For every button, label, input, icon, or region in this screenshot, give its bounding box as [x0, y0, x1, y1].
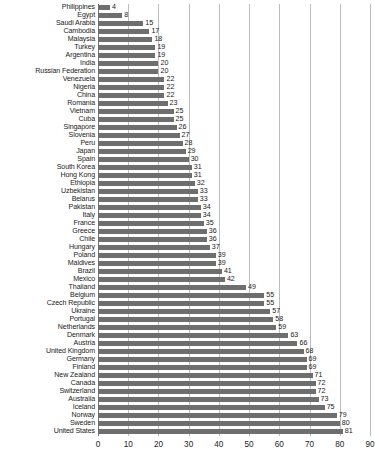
bar	[98, 213, 201, 219]
bar	[98, 277, 225, 283]
bar-row: Poland39	[98, 252, 370, 260]
bar	[98, 245, 210, 251]
category-label: United States	[54, 428, 95, 435]
bar-row: Thailand49	[98, 284, 370, 292]
bar-chart: Philippines4Egypt8Saudi Arabia15Cambodia…	[0, 0, 379, 468]
bar-row: Maldives39	[98, 260, 370, 268]
bar	[98, 77, 164, 83]
bar	[98, 365, 307, 371]
gridline-90	[370, 4, 371, 436]
bar	[98, 285, 246, 291]
x-tick-label: 60	[275, 440, 284, 449]
bar	[98, 117, 174, 123]
x-tick-label: 10	[124, 440, 133, 449]
value-label: 81	[345, 428, 353, 435]
bar	[98, 317, 273, 323]
bar	[98, 133, 180, 139]
x-tick-label: 90	[365, 440, 374, 449]
bar	[98, 229, 207, 235]
bar	[98, 405, 325, 411]
bar	[98, 373, 313, 379]
value-label: 4	[112, 4, 116, 11]
bar-row: India20	[98, 60, 370, 68]
bar	[98, 141, 183, 147]
bar-row: Finland69	[98, 364, 370, 372]
bar	[98, 421, 340, 427]
bar	[98, 333, 288, 339]
bar-row: Portugal58	[98, 316, 370, 324]
bar-row: Argentina19	[98, 52, 370, 60]
bar-row: Vietnam25	[98, 108, 370, 116]
bar	[98, 85, 164, 91]
x-tick-label: 70	[305, 440, 314, 449]
bar	[98, 189, 198, 195]
x-tick-label: 0	[96, 440, 101, 449]
bar-row: Chile36	[98, 236, 370, 244]
value-label: 75	[327, 404, 335, 411]
bar	[98, 197, 198, 203]
bar-row: Greece36	[98, 228, 370, 236]
bar-row: Singapore26	[98, 124, 370, 132]
bar-row: Hungary37	[98, 244, 370, 252]
bar	[98, 181, 195, 187]
bar-row: Germany69	[98, 356, 370, 364]
bar-row: Spain30	[98, 156, 370, 164]
bar	[98, 205, 201, 211]
bar	[98, 149, 186, 155]
bar-row: Italy34	[98, 212, 370, 220]
bar	[98, 21, 143, 27]
bar-row: United States81	[98, 428, 370, 436]
bar	[98, 309, 270, 315]
bar-row: Hong Kong31	[98, 172, 370, 180]
bar-row: Malaysia18	[98, 36, 370, 44]
value-label: 49	[248, 284, 256, 291]
bar	[98, 69, 158, 75]
bar-row: Japan29	[98, 148, 370, 156]
bar-row: Turkey19	[98, 44, 370, 52]
bar-row: Ethiopia32	[98, 180, 370, 188]
bar-row: Ukraine57	[98, 308, 370, 316]
bar-rows: Philippines4Egypt8Saudi Arabia15Cambodia…	[98, 4, 370, 436]
bar	[98, 261, 216, 267]
bar-row: Russian Federation20	[98, 68, 370, 76]
bar-row: Belgium55	[98, 292, 370, 300]
bar-row: South Korea31	[98, 164, 370, 172]
bar-row: Iceland75	[98, 404, 370, 412]
bar-row: Cuba25	[98, 116, 370, 124]
bar	[98, 237, 207, 243]
bar	[98, 349, 304, 355]
bar-row: Mexico42	[98, 276, 370, 284]
bar	[98, 221, 204, 227]
bar	[98, 13, 122, 19]
x-tick-label: 40	[214, 440, 223, 449]
plot-area: Philippines4Egypt8Saudi Arabia15Cambodia…	[98, 4, 370, 436]
bar	[98, 325, 276, 331]
bar-row: Venezuela22	[98, 76, 370, 84]
bar-row: New Zealand71	[98, 372, 370, 380]
bar	[98, 109, 174, 115]
value-label: 63	[290, 332, 298, 339]
bar-row: Uzbekistan33	[98, 188, 370, 196]
bar	[98, 29, 149, 35]
bar-row: Slovenia27	[98, 132, 370, 140]
bar	[98, 341, 297, 347]
bar-row: Peru28	[98, 140, 370, 148]
bar-row: Egypt8	[98, 12, 370, 20]
bar	[98, 45, 155, 51]
bar	[98, 429, 343, 435]
bar-row: Sweden80	[98, 420, 370, 428]
bar	[98, 165, 192, 171]
bar	[98, 397, 319, 403]
bar-row: China22	[98, 92, 370, 100]
bar	[98, 93, 164, 99]
bar-row: Denmark63	[98, 332, 370, 340]
bar-row: Netherlands59	[98, 324, 370, 332]
bar	[98, 53, 155, 59]
bar-row: Philippines4	[98, 4, 370, 12]
bar	[98, 381, 316, 387]
bar	[98, 37, 152, 43]
bar	[98, 357, 307, 363]
bar	[98, 269, 222, 275]
bar-row: Cambodia17	[98, 28, 370, 36]
bar	[98, 301, 264, 307]
